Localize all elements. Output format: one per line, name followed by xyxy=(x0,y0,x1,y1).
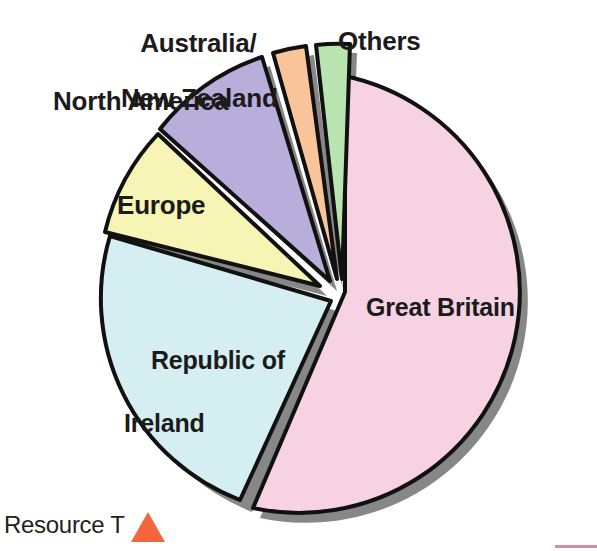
slice-label-great-britain: Great Britain xyxy=(366,294,515,321)
slice-label-others: Others xyxy=(338,28,421,56)
slice-label-australia-line1: Australia/ xyxy=(140,28,257,58)
slice-label-north-america: North America xyxy=(53,88,229,116)
slice-label-ireland-line1: Republic of xyxy=(151,346,285,374)
resource-label: Resource T xyxy=(4,511,125,539)
pie-chart-canvas xyxy=(0,0,597,551)
slice-label-republic-of-ireland: Republic of Ireland xyxy=(124,313,285,502)
slice-label-australia-new-zealand: Australia/ New Zealand xyxy=(113,2,278,167)
footer-bar: Resource T xyxy=(0,505,597,551)
orange-triangle-icon xyxy=(131,512,165,542)
slice-label-europe: Europe xyxy=(117,192,205,220)
corner-rule xyxy=(555,545,597,548)
pie-chart: Australia/ New Zealand North America Eur… xyxy=(0,0,597,551)
slice-label-ireland-line2: Ireland xyxy=(124,408,285,440)
